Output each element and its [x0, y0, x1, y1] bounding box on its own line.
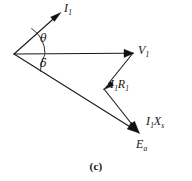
label-i1r1-sub2: 1 — [125, 84, 129, 93]
phasor-diagram-figure: I1 V1 I1R1 I1Xs Ea θ δ (c) — [0, 0, 192, 181]
label-v1-sub: 1 — [146, 50, 150, 59]
label-i1xs-base2: X — [154, 114, 161, 128]
vector-v1 — [14, 49, 134, 57]
vector-ea — [14, 54, 140, 133]
label-i1xs-sub2: s — [161, 121, 164, 130]
label-angle-theta: θ — [40, 33, 47, 44]
label-i1xs: I1Xs — [146, 115, 164, 127]
label-v1-base: V — [138, 43, 145, 57]
label-ea-base: E — [136, 137, 143, 151]
phasor-diagram-canvas — [0, 0, 192, 181]
label-i1r1-sub: 1 — [114, 84, 118, 93]
label-v1: V1 — [138, 44, 149, 56]
label-i1-sub: 1 — [68, 8, 72, 17]
label-i1r1-base2: R — [118, 77, 125, 91]
vector-i1-shaft — [14, 17, 56, 54]
vector-v1-shaft — [14, 53, 126, 54]
label-ea: Ea — [136, 138, 147, 150]
label-angle-delta: δ — [40, 58, 47, 69]
label-i1r1: I1R1 — [110, 78, 129, 90]
label-i1xs-sub: 1 — [150, 121, 154, 130]
label-i1: I1 — [64, 2, 72, 14]
figure-caption: (c) — [0, 160, 192, 172]
label-ea-sub: a — [144, 144, 148, 153]
